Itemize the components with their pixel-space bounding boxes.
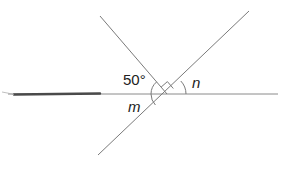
label-50-degrees: 50° bbox=[123, 71, 146, 88]
thick-stroke-mark bbox=[14, 94, 100, 95]
label-n: n bbox=[192, 74, 200, 91]
angle-diagram: 50° m n bbox=[0, 0, 282, 190]
diagonal-line bbox=[98, 11, 249, 155]
angle-arc-n bbox=[181, 81, 186, 94]
label-m: m bbox=[128, 98, 141, 115]
angle-arc-50 bbox=[151, 82, 157, 94]
